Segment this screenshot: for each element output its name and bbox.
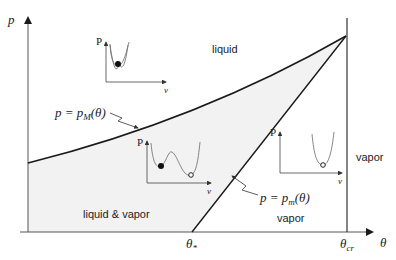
svg-text:P: P bbox=[137, 136, 143, 148]
lower-curve-label: p = pm(θ) bbox=[259, 190, 310, 207]
theta-cr-label: θcr bbox=[340, 236, 354, 253]
svg-text:P: P bbox=[270, 126, 276, 138]
liquid-vapor-label: liquid & vapor bbox=[83, 208, 150, 220]
inset-liquid: P v bbox=[96, 35, 168, 95]
x-axis-label: θ bbox=[380, 235, 387, 250]
upper-curve-pointer bbox=[110, 113, 138, 128]
svg-text:P: P bbox=[96, 35, 102, 47]
vapor-label-right: vapor bbox=[356, 151, 384, 163]
inset-vapor: P v bbox=[270, 126, 342, 186]
svg-text:v: v bbox=[338, 176, 342, 186]
svg-text:v: v bbox=[164, 85, 168, 95]
phase-diagram: p θ θ* θcr liquid liquid & vapor vapor v… bbox=[0, 0, 396, 260]
theta-star-label: θ* bbox=[186, 236, 197, 253]
vapor-label-lower: vapor bbox=[277, 212, 305, 224]
lower-curve-pointer bbox=[232, 176, 258, 195]
upper-curve-label: p = pM(θ) bbox=[54, 105, 106, 122]
y-axis-label: p bbox=[7, 12, 15, 27]
liquid-label: liquid bbox=[212, 43, 238, 55]
svg-text:v: v bbox=[207, 186, 211, 196]
